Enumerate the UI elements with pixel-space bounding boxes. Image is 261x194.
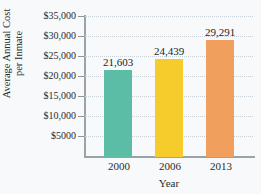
bar-2000[interactable] [104, 70, 132, 157]
y-tick-label: $35,000 [20, 11, 76, 21]
y-axis-title-line-1: Average Annual Cost [1, 0, 13, 113]
bar-2006[interactable] [155, 59, 183, 157]
bar-value-label: 24,439 [135, 46, 203, 57]
x-axis-title: Year [85, 177, 253, 189]
y-tick-label: $30,000 [20, 31, 76, 41]
y-tick-label: $5000 [20, 131, 76, 141]
y-tick-label: $20,000 [20, 71, 76, 81]
bar-chart-figure: in the United States Average Annual Cost… [0, 0, 261, 194]
gridline [85, 16, 253, 17]
y-axis-tick-labels: $35,000 $30,000 $25,000 $20,000 $15,000 … [18, 0, 76, 194]
x-tick-label-2013: 2013 [186, 161, 256, 172]
bar-2013[interactable] [206, 40, 234, 157]
y-tick-label: $10,000 [20, 111, 76, 121]
y-tick-label: $15,000 [20, 91, 76, 101]
bar-value-label: 29,291 [186, 27, 254, 38]
y-tick-label: $25,000 [20, 51, 76, 61]
bar-value-label: 21,603 [84, 57, 152, 68]
